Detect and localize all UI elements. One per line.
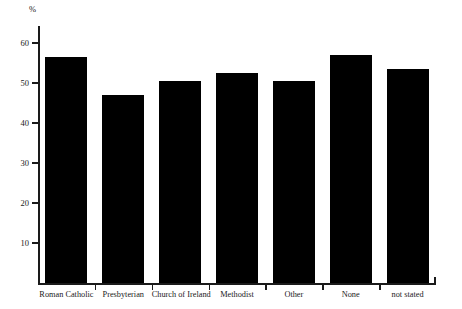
bar <box>330 55 372 283</box>
bar <box>45 57 87 283</box>
bar <box>216 73 258 283</box>
bar <box>102 95 144 283</box>
x-axis-label: not stated <box>379 290 436 300</box>
x-axis-label: Roman Catholic <box>38 290 95 300</box>
x-axis-label: Presbyterian <box>95 290 152 300</box>
bar <box>387 69 429 283</box>
bar <box>159 81 201 283</box>
bar-chart: % 102030405060 Roman CatholicPresbyteria… <box>0 0 462 309</box>
x-axis-label: Methodist <box>209 290 266 300</box>
bars-layer <box>0 0 462 283</box>
x-axis-line <box>38 283 436 285</box>
x-axis-label: Other <box>265 290 322 300</box>
bar <box>273 81 315 283</box>
x-axis-label: Church of Ireland <box>152 290 209 300</box>
x-axis-label: None <box>322 290 379 300</box>
